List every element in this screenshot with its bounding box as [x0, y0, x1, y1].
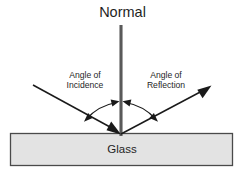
angle-of-reflection-label-line1: Angle of	[150, 70, 182, 80]
normal-label: Normal	[0, 4, 245, 21]
angle-of-incidence-label-line2: Incidence	[67, 80, 104, 90]
angle-of-incidence-label-line1: Angle of	[69, 70, 101, 80]
angle-of-reflection-arc-arrowhead-normal	[123, 100, 132, 107]
incident-ray	[33, 85, 116, 130]
angle-of-reflection-label: Angle ofReflection	[126, 70, 206, 90]
angle-of-incidence-label: Angle ofIncidence	[48, 70, 122, 90]
angle-of-incidence-arc-arrowhead-normal	[111, 100, 120, 107]
reflected-ray	[121, 90, 204, 134]
glass-label: Glass	[10, 143, 234, 157]
diagram-canvas: Normal Angle ofIncidence Angle ofReflect…	[0, 0, 245, 172]
incident-ray-arrowhead	[107, 121, 122, 134]
angle-of-reflection-label-line2: Reflection	[147, 80, 185, 90]
